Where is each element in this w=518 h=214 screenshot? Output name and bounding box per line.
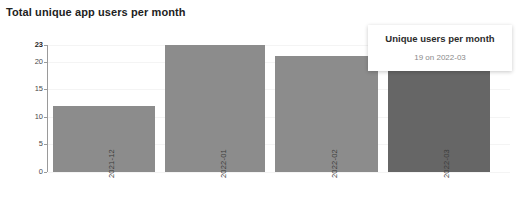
x-axis-label-1: 2022-01 (219, 149, 228, 178)
x-axis-label-0: 2021-12 (107, 149, 116, 178)
tooltip-title: Unique users per month (374, 33, 506, 44)
x-axis-label-2: 2022-02 (330, 149, 339, 178)
bar-2022-03[interactable] (388, 67, 490, 172)
chart-container: Total unique app users per month 23 20 1… (0, 0, 518, 214)
x-axis-label-3: 2022-03 (442, 149, 451, 178)
bar-2022-01[interactable] (165, 45, 265, 172)
tooltip-value: 19 on 2022-03 (374, 53, 506, 62)
bar-2021-12[interactable] (53, 106, 155, 172)
chart-title: Total unique app users per month (6, 6, 186, 18)
chart-tooltip: Unique users per month 19 on 2022-03 (368, 25, 512, 71)
bar-2022-02[interactable] (275, 56, 378, 172)
